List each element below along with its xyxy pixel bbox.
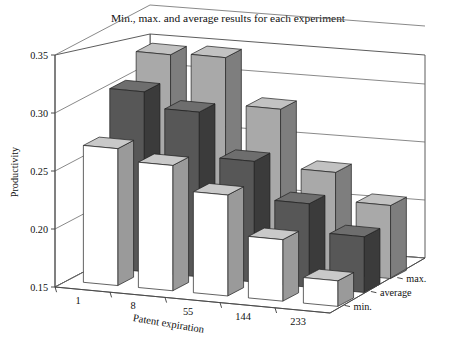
x-category-label: 144	[235, 311, 251, 322]
x-axis-label: Patent expiration	[132, 312, 206, 335]
x-tick	[55, 287, 57, 292]
x-category-label: 55	[183, 306, 193, 317]
bar-front-face	[83, 145, 117, 285]
z-tick	[345, 305, 351, 306]
z-tick	[371, 291, 377, 292]
bar-min-8	[138, 154, 188, 291]
x-category-label: 8	[130, 300, 135, 311]
x-tick	[220, 303, 222, 308]
z-tick	[397, 278, 403, 279]
y-tick-label: 0.30	[30, 108, 48, 119]
chart-container: Min., max. and average results for each …	[0, 0, 457, 347]
y-tick-label: 0.35	[30, 50, 48, 61]
bar-min-233	[303, 269, 353, 306]
x-tick	[165, 297, 167, 302]
y-axis: 0.350.300.250.200.15	[30, 50, 55, 293]
x-tick	[275, 308, 277, 313]
legend-label-average: average	[380, 287, 412, 298]
bar-side-face	[283, 231, 299, 301]
bar-side-face	[118, 140, 134, 285]
x-category-label: 1	[75, 295, 80, 306]
bar-side-face	[364, 228, 380, 292]
bar-side-face	[391, 197, 407, 278]
bar-front-face	[248, 236, 282, 301]
y-tick-label: 0.20	[30, 224, 48, 235]
legend-label-max: max.	[406, 273, 426, 284]
bar-min-55	[193, 183, 243, 296]
x-category-label: 233	[290, 316, 306, 327]
chart-title: Min., max. and average results for each …	[111, 12, 346, 24]
bar-chart-3d: Min., max. and average results for each …	[0, 0, 457, 347]
y-tick-label: 0.15	[30, 282, 48, 293]
x-tick	[110, 292, 112, 297]
bar-front-face	[138, 162, 172, 291]
bar-side-face	[228, 187, 244, 296]
bar-min-1	[83, 137, 133, 285]
bar-front-face	[303, 278, 337, 307]
bar-side-face	[173, 157, 189, 291]
legend-label-min: min.	[354, 301, 372, 312]
bar-front-face	[193, 192, 227, 296]
y-tick-label: 0.25	[30, 166, 48, 177]
y-axis-label: Productivity	[9, 146, 20, 197]
bar-min-144	[248, 228, 298, 301]
